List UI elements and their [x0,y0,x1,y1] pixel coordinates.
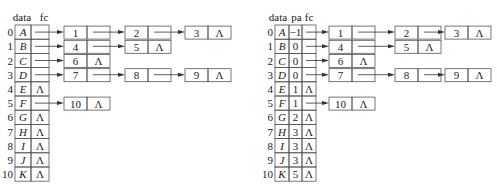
table-row: 10KΛ [2,167,49,181]
next-pointer-cell [148,26,171,39]
null-pointer: Λ [305,154,313,166]
child-index: 1 [73,27,79,39]
row-index: 9 [8,154,14,166]
next-pointer-cell [87,69,110,82]
row-index: 3 [8,69,14,81]
fc-pointer-arrow [35,59,64,63]
data-value: K [277,168,286,180]
row-index: 6 [268,111,274,123]
child-node: 6Λ [64,55,110,68]
next-pointer-arrow [93,44,125,48]
row-index: 4 [8,83,14,95]
table-row: 10K5Λ [262,167,316,181]
fc-pointer-arrow [306,44,329,48]
null-pointer: Λ [305,126,313,138]
data-value: D [18,69,27,81]
table-row: 1B45Λ [8,39,172,53]
fc-pointer-arrow [306,59,329,63]
null-pointer: Λ [305,111,313,123]
row-index: 0 [268,26,274,38]
child-node: 10Λ [64,97,110,110]
row-index: 1 [268,40,274,52]
row-index: 10 [2,168,14,180]
child-node: 8 [125,69,185,82]
child-node: 10Λ [329,97,375,110]
column-header-pa: pa [291,11,302,23]
data-value: F [19,97,27,109]
next-pointer-arrow [154,73,185,77]
column-header-fc: fc [305,11,314,23]
child-node: 9Λ [185,69,231,82]
data-value: C [19,55,27,67]
null-pointer: Λ [476,27,484,39]
child-node: 4 [329,40,395,53]
child-index: 7 [73,69,79,81]
row-index: 4 [268,83,274,95]
next-pointer-cell [352,26,375,39]
data-value: J [21,154,27,166]
next-pointer-arrow [93,73,125,77]
table-row: 4EΛ [8,82,50,96]
column-header-fc: fc [40,11,49,23]
pa-value: 5 [293,168,299,180]
child-node: 5Λ [125,40,171,53]
table-row: 2C06Λ [268,53,376,67]
child-index: 4 [73,41,79,53]
table-row: 7H3Λ [268,124,317,138]
null-pointer: Λ [305,83,313,95]
data-value: I [20,140,26,152]
data-value: E [278,83,286,95]
pa-value: 3 [293,140,299,152]
child-node: 6Λ [329,55,375,68]
next-pointer-arrow [424,30,445,34]
table-row: 0A−1123Λ [268,25,492,39]
data-value: A [19,26,27,38]
data-value: H [277,126,287,138]
row-index: 2 [268,55,274,67]
data-value: B [20,40,27,52]
table-row: 6G2Λ [268,110,317,124]
pa-value: 2 [293,111,299,123]
row-index: 10 [262,168,274,180]
fc-pointer-arrow [35,101,64,105]
table-row: 6GΛ [8,110,50,124]
child-index: 5 [404,41,410,53]
null-pointer: Λ [360,55,368,67]
data-value: I [279,140,285,152]
next-pointer-cell [352,40,375,53]
next-pointer-cell [87,26,110,39]
child-index: 9 [194,69,200,81]
fc-pointer-arrow [306,30,329,34]
row-index: 1 [8,40,14,52]
child-node: 4 [64,40,125,53]
null-pointer: Λ [216,69,224,81]
child-node: 3Λ [445,26,491,39]
data-value: A [278,26,286,38]
child-node: 7 [329,69,395,82]
pa-value: 3 [293,126,299,138]
data-value: H [18,126,28,138]
child-node: 3Λ [185,26,231,39]
null-pointer: Λ [476,69,484,81]
child-index: 10 [335,98,347,110]
pa-value: 0 [293,69,299,81]
pa-value: −1 [290,26,302,38]
null-pointer: Λ [36,154,44,166]
table-row: 3D789Λ [8,68,232,82]
column-header-data: data [269,11,287,23]
null-pointer: Λ [95,55,103,67]
next-pointer-arrow [424,73,445,77]
row-index: 0 [8,26,14,38]
data-value: G [278,111,286,123]
row-index: 2 [8,55,14,67]
next-pointer-cell [352,69,375,82]
null-pointer: Λ [36,126,44,138]
column-header-data: data [13,11,31,23]
child-index: 6 [73,55,79,67]
table-row: 1B045Λ [268,39,442,53]
next-pointer-arrow [358,30,395,34]
data-value: B [279,40,286,52]
table-row: 7HΛ [8,124,50,138]
table-row: 5F110Λ [268,96,376,110]
row-index: 3 [268,69,274,81]
